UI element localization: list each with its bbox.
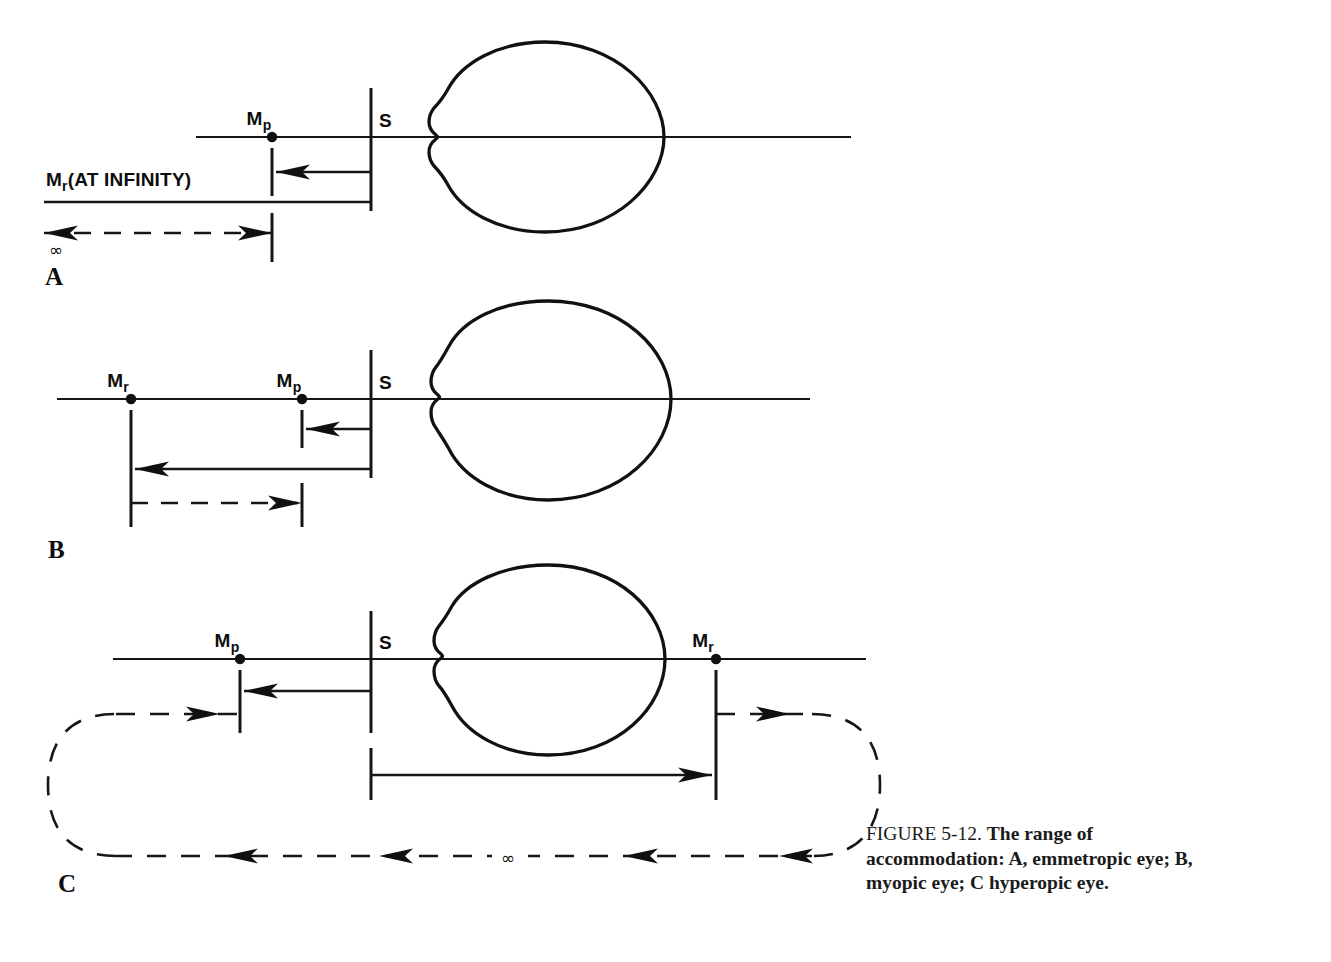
panel-c-far-point-dot — [711, 654, 721, 664]
panel-c-loop-left-arc — [48, 714, 116, 856]
panel-c-far-point-label: Mr — [692, 630, 714, 655]
panel-a-schematic-eye-label: S — [379, 110, 392, 131]
panel-c-hyperopic: Mp Mr S ∞ C — [48, 565, 880, 897]
panel-b-schematic-eye-label: S — [379, 372, 392, 393]
panel-b-near-point-dot — [297, 394, 307, 404]
figure-caption: FIGURE 5-12. The range of accommodation:… — [866, 822, 1196, 896]
panel-c-loop-bottom-arrowhead-2 — [624, 849, 658, 864]
panel-a-far-point-label: Mr(AT INFINITY) — [46, 169, 191, 194]
panel-b-accommodation-range-arrowhead — [268, 496, 302, 511]
panel-c-infinity-symbol: ∞ — [501, 848, 515, 868]
panel-b-far-point-dot — [126, 394, 136, 404]
panel-letter-a: A — [45, 263, 63, 290]
accommodation-range-diagram: Mp Mr(AT INFINITY) S ∞ A — [0, 0, 1331, 962]
panel-a-infinity-symbol: ∞ — [49, 240, 63, 260]
panel-b-far-point-label: Mr — [107, 370, 129, 395]
panel-letter-b: B — [48, 536, 65, 563]
panel-a-emmetropic: Mp Mr(AT INFINITY) S ∞ A — [44, 42, 851, 290]
panel-a-infinity-right-arrowhead — [238, 226, 272, 241]
panel-a-infinity-left-arrowhead — [44, 226, 78, 241]
panel-c-near-point-label: Mp — [215, 630, 240, 655]
panel-b-eyeball-outline — [431, 301, 671, 500]
figure-root: Mp Mr(AT INFINITY) S ∞ A — [0, 0, 1331, 962]
figure-number: FIGURE 5-12. — [866, 823, 982, 844]
panel-a-near-point-dot — [267, 132, 277, 142]
panel-a-near-point-label: Mp — [247, 108, 272, 133]
panel-b-near-point-label: Mp — [277, 370, 302, 395]
panel-c-schematic-eye-label: S — [379, 632, 392, 653]
panel-c-near-point-dot — [235, 654, 245, 664]
panel-letter-c: C — [58, 870, 76, 897]
panel-b-myopic: Mr Mp S B — [48, 301, 810, 563]
panel-c-loop-bottom-arrowhead-3 — [379, 849, 413, 864]
